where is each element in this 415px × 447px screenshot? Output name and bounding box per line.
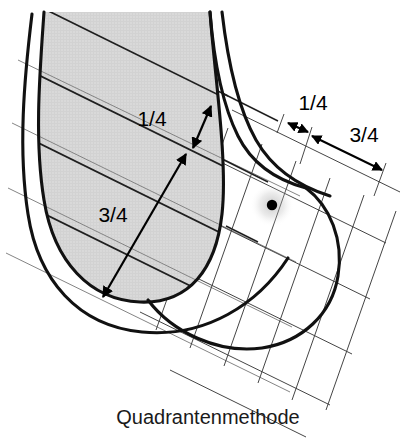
quadrant-col-4 <box>292 195 364 400</box>
outer-three-quarter-label: 3/4 <box>349 123 379 146</box>
inner-three-quarter-label: 3/4 <box>98 203 128 226</box>
quadrant-method-diagram: 1/4 3/4 1/4 3/4 Quadrantenmethode <box>0 0 415 447</box>
inner-quarter-label: 1/4 <box>137 107 167 130</box>
center-point-dot <box>267 200 277 210</box>
witness-line-left <box>277 114 284 133</box>
heel-grid-ext-3b <box>226 226 258 242</box>
quadrant-row-4 <box>140 312 330 405</box>
witness-line-mid <box>300 127 312 164</box>
center-point-marker <box>250 183 294 227</box>
outer-quarter-dimension-arrow <box>288 123 308 132</box>
outer-quarter-label: 1/4 <box>298 91 328 114</box>
figure-root: 1/4 3/4 1/4 3/4 Quadrantenmethode <box>0 0 415 447</box>
figure-caption: Quadrantenmethode <box>116 406 299 428</box>
heel-grid-ext-2b <box>224 160 268 182</box>
